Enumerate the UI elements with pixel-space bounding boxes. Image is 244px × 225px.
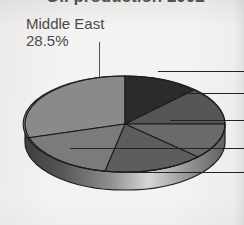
middle-east-callout-label: Middle East 28.5% bbox=[26, 15, 104, 49]
pie-chart-figure: Oil production 2002 Middle East 28.5% bbox=[0, 0, 244, 225]
leader-line-asia-pacific bbox=[182, 93, 244, 94]
chart-title: Oil production 2002 bbox=[46, 0, 244, 7]
callout-percent: 28.5% bbox=[26, 32, 104, 49]
leader-line-europe-eurasia bbox=[70, 148, 244, 149]
leader-line-north-america bbox=[158, 71, 244, 72]
callout-name: Middle East bbox=[26, 15, 104, 32]
scan-edge-shadow bbox=[234, 0, 244, 225]
leader-line-africa bbox=[170, 120, 244, 121]
pie-svg bbox=[22, 62, 228, 202]
pie-chart-graphic bbox=[22, 62, 228, 202]
leader-line-latin-america bbox=[118, 172, 244, 173]
